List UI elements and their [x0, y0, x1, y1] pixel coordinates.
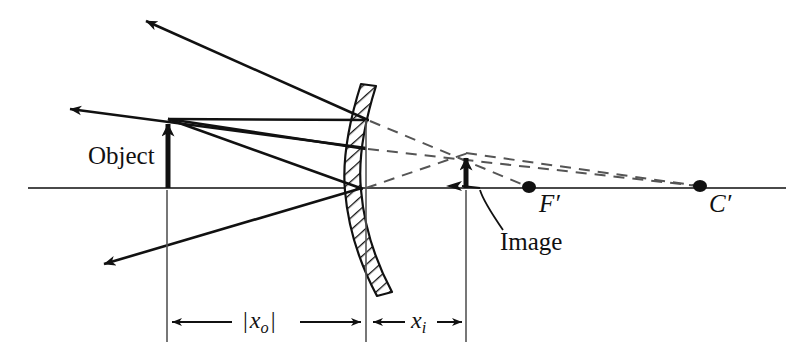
object-label: Object	[88, 143, 155, 168]
object-distance-variable: x	[250, 307, 261, 333]
virtual-ray-extensions	[366, 121, 699, 188]
image-label: Image	[500, 229, 562, 254]
focal-point-label: F′	[539, 191, 560, 216]
image-distance-subscript: i	[422, 318, 427, 337]
center-of-curvature-dot	[693, 180, 707, 192]
object-distance-close-bar: |	[269, 307, 278, 333]
ray-vertex-reflected	[104, 188, 362, 264]
focal-point-dot	[522, 181, 536, 193]
object-distance-open-bar: |	[241, 307, 250, 333]
object-distance-subscript: o	[260, 318, 268, 337]
image-distance-label: xi	[411, 308, 426, 336]
virtual-image-to-center	[466, 153, 699, 186]
image-distance-variable: x	[411, 307, 422, 333]
ray-parallel-incident	[168, 119, 369, 120]
center-of-curvature-label: C′	[709, 191, 731, 216]
ray-diagram-figure: Object Image F′ C′ |xo| xi	[0, 0, 799, 359]
ray-parallel-reflected	[146, 21, 368, 120]
incident-rays	[168, 119, 369, 189]
ray-vertex-incident	[168, 119, 363, 189]
virtual-center-extension	[368, 149, 699, 186]
ray-diagram-canvas	[0, 0, 799, 359]
object-distance-label: |xo|	[241, 308, 277, 336]
